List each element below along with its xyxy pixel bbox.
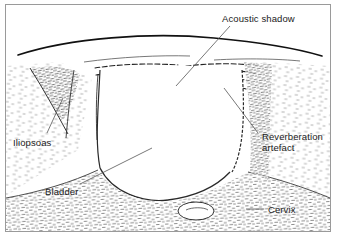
cervix-structure [178,202,214,220]
label-cervix: Cervix [268,204,296,215]
label-reverberation-artefact-line1: Reverberation [262,131,323,142]
ultrasound-figure: Acoustic shadow Reverberation artefact I… [0,0,338,241]
label-acoustic-shadow-text: Acoustic shadow [222,13,295,24]
label-acoustic-shadow: Acoustic shadow [222,13,295,24]
label-iliopsoas: Iliopsoas [13,137,51,148]
label-reverberation-artefact: Reverberation artefact [262,131,323,153]
label-cervix-text: Cervix [268,204,296,215]
label-bladder: Bladder [45,186,78,197]
right-lateral-tissue [244,62,272,180]
label-bladder-text: Bladder [45,186,78,197]
skin-surface [18,36,322,62]
label-iliopsoas-text: Iliopsoas [13,137,51,148]
label-reverberation-artefact-line2: artefact [262,142,323,153]
